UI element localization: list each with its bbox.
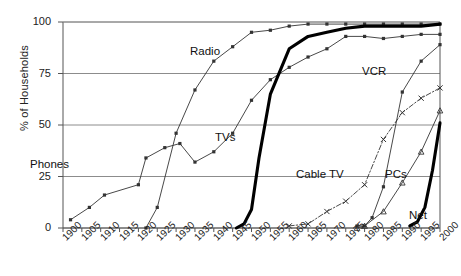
y-tick-label-100: 100 <box>17 15 51 27</box>
series-marker-cable-tv-4 <box>362 182 367 187</box>
series-marker-radio-8 <box>288 25 291 28</box>
series-marker-vcr-5 <box>420 60 423 63</box>
series-line-tvs <box>236 24 440 228</box>
series-marker-phones-19 <box>420 33 423 36</box>
y-tick-label-25: 25 <box>17 170 51 182</box>
series-marker-phones-0 <box>69 218 72 221</box>
series-marker-phones-20 <box>438 33 441 36</box>
series-marker-radio-2 <box>175 132 178 135</box>
series-marker-phones-6 <box>178 142 181 145</box>
series-marker-radio-6 <box>250 31 253 34</box>
series-marker-radio-1 <box>156 206 159 209</box>
y-tick-label-50: 50 <box>17 118 51 130</box>
series-marker-radio-7 <box>269 29 272 32</box>
series-marker-phones-4 <box>144 156 147 159</box>
series-marker-vcr-6 <box>438 43 441 46</box>
series-marker-radio-11 <box>344 22 347 25</box>
series-marker-vcr-4 <box>401 90 404 93</box>
series-label-vcr: VCR <box>362 65 386 77</box>
series-label-phones: Phones <box>30 158 69 170</box>
series-marker-phones-18 <box>401 35 404 38</box>
series-marker-radio-5 <box>231 45 234 48</box>
series-marker-cable-tv-7 <box>419 96 424 101</box>
series-label-pcs: PCs <box>385 168 407 180</box>
series-marker-cable-tv-5 <box>381 137 386 142</box>
series-label-cable-tv: Cable TV <box>296 168 344 180</box>
series-marker-cable-tv-2 <box>324 209 329 214</box>
series-marker-phones-2 <box>103 193 106 196</box>
series-marker-phones-5 <box>163 146 166 149</box>
series-marker-phones-10 <box>250 99 253 102</box>
series-marker-phones-15 <box>344 35 347 38</box>
series-label-net: Net <box>409 209 427 221</box>
series-marker-radio-9 <box>306 22 309 25</box>
series-marker-phones-3 <box>137 183 140 186</box>
series-marker-phones-13 <box>306 55 309 58</box>
series-marker-phones-1 <box>88 206 91 209</box>
y-tick-label-0: 0 <box>17 221 51 233</box>
series-marker-phones-11 <box>269 78 272 81</box>
y-tick-label-75: 75 <box>17 67 51 79</box>
series-marker-vcr-3 <box>382 185 385 188</box>
series-marker-radio-10 <box>325 22 328 25</box>
series-marker-phones-8 <box>212 150 215 153</box>
series-marker-phones-12 <box>288 66 291 69</box>
series-marker-radio-3 <box>193 88 196 91</box>
series-marker-radio-4 <box>212 60 215 63</box>
series-marker-phones-7 <box>193 160 196 163</box>
series-line-cable-tv <box>289 88 440 226</box>
series-marker-cable-tv-6 <box>400 110 405 115</box>
series-marker-phones-14 <box>325 47 328 50</box>
series-marker-cable-tv-3 <box>343 199 348 204</box>
series-label-tvs: TVs <box>215 131 235 143</box>
series-label-radio: Radio <box>190 45 220 57</box>
series-marker-phones-16 <box>363 35 366 38</box>
series-marker-phones-17 <box>382 37 385 40</box>
